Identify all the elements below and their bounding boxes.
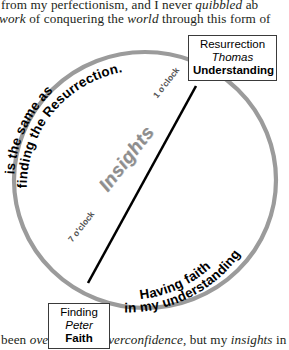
node-finding-concept: Faith xyxy=(53,332,105,345)
body-text-2-post: through this form of xyxy=(159,11,271,26)
insights-cycle-diagram: is the same as finding the Resurrection.… xyxy=(0,28,289,328)
node-finding-person: Peter xyxy=(53,319,105,332)
body-text-3-mid-2: , but my xyxy=(183,332,231,347)
node-finding-title: Finding xyxy=(53,306,105,319)
node-resurrection-title: Resurrection xyxy=(193,38,272,51)
node-box-finding[interactable]: Finding Peter Faith xyxy=(48,303,110,349)
node-box-resurrection[interactable]: Resurrection Thomas Understanding xyxy=(188,35,277,81)
body-text-3-italic-2: overconfidence xyxy=(101,332,182,347)
node-resurrection-concept: Understanding xyxy=(193,64,272,77)
body-text-3-post: in xyxy=(273,332,287,347)
body-text-2-mid: of conquering the xyxy=(26,11,128,26)
body-text-3-pre: been xyxy=(1,332,30,347)
body-text-2-italic-1: work xyxy=(0,11,26,26)
body-text-3-italic-3: insights xyxy=(231,332,273,347)
node-resurrection-person: Thomas xyxy=(193,51,272,64)
body-text-line-2: work of conquering the world through thi… xyxy=(0,11,288,27)
body-text-line-3: been overcome by overconfidence, but my … xyxy=(1,332,289,348)
body-text-2-italic-2: world xyxy=(127,11,158,26)
